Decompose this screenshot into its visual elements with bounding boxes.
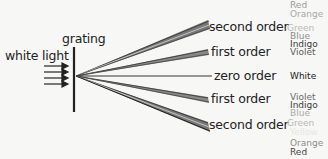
spectrum-top-orange: Orange [290,10,323,19]
spectrum-bottom-red: Red [290,148,307,157]
white-light-label: white light [5,50,69,63]
spectrum-bottom-blue: Blue [290,109,310,118]
zero-order-label: zero order [214,70,276,83]
second-order-top-beam [76,20,210,76]
spectrum-top-violet: Violet [290,48,316,57]
second-order-bottom-label: second order [209,119,289,132]
first-order-bottom-label: first order [211,93,271,106]
spectrum-zero-white: White [290,72,316,81]
second-order-top-label: second order [209,21,289,34]
grating-label: grating [62,33,106,46]
white-light-arrows-icon [44,63,68,87]
first-order-top-label: first order [211,46,271,59]
diffraction-grating-diagram: grating white light second order first o… [0,0,328,159]
first-order-top-beam [76,49,209,76]
spectrum-bottom-yellow: Yellow [290,128,318,137]
first-order-bottom-beam [76,76,209,103]
second-order-bottom-beam [76,76,210,132]
